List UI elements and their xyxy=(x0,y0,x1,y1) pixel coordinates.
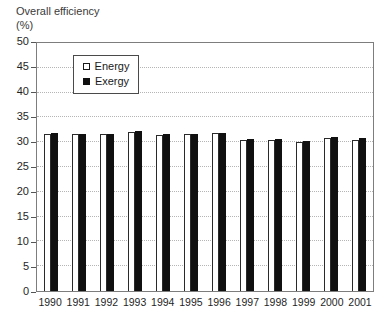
bar-group-1998 xyxy=(261,43,289,291)
bar-energy-1999 xyxy=(296,142,303,291)
y-tick-mark-5 xyxy=(31,267,36,268)
bar-energy-1993 xyxy=(128,132,135,291)
bar-group-2000 xyxy=(317,43,345,291)
x-tick-label-1993: 1993 xyxy=(121,296,149,308)
x-tick-label-1992: 1992 xyxy=(92,296,120,308)
bar-energy-2000 xyxy=(324,138,331,291)
bar-energy-2001 xyxy=(352,140,359,291)
y-tick-mark-45 xyxy=(31,67,36,68)
bar-exergy-1995 xyxy=(191,134,198,291)
bar-energy-1991 xyxy=(72,134,79,291)
bar-exergy-2001 xyxy=(359,138,366,291)
bar-exergy-1991 xyxy=(79,134,86,291)
y-tick-mark-35 xyxy=(31,117,36,118)
bar-group-1999 xyxy=(289,43,317,291)
legend-item-exergy: Exergy xyxy=(83,76,129,87)
plot-area: EnergyExergy xyxy=(36,42,374,292)
y-tick-label-50: 50 xyxy=(0,35,29,47)
x-tick-label-2001: 2001 xyxy=(346,296,374,308)
bar-energy-1995 xyxy=(184,134,191,291)
bar-exergy-1990 xyxy=(51,133,58,291)
legend-item-energy: Energy xyxy=(83,61,130,72)
legend-label-energy: Energy xyxy=(95,61,130,72)
x-tick-label-1995: 1995 xyxy=(177,296,205,308)
x-tick-label-1998: 1998 xyxy=(261,296,289,308)
bar-energy-1994 xyxy=(156,135,163,291)
x-tick-label-1991: 1991 xyxy=(64,296,92,308)
x-tick-label-1997: 1997 xyxy=(233,296,261,308)
y-tick-mark-50 xyxy=(31,42,36,43)
bar-group-2001 xyxy=(345,43,373,291)
bar-exergy-1998 xyxy=(275,139,282,291)
bar-group-1990 xyxy=(37,43,65,291)
bar-group-1996 xyxy=(205,43,233,291)
y-tick-label-45: 45 xyxy=(0,60,29,72)
y-tick-label-25: 25 xyxy=(0,160,29,172)
y-tick-label-10: 10 xyxy=(0,235,29,247)
bar-group-1994 xyxy=(149,43,177,291)
bar-energy-1996 xyxy=(212,133,219,291)
y-tick-label-5: 5 xyxy=(0,260,29,272)
y-tick-label-15: 15 xyxy=(0,210,29,222)
chart-title: Overall efficiency (%) xyxy=(16,4,102,32)
y-tick-mark-10 xyxy=(31,242,36,243)
y-tick-mark-30 xyxy=(31,142,36,143)
figure: Overall efficiency (%) EnergyExergy 1990… xyxy=(0,0,387,327)
legend-label-exergy: Exergy xyxy=(95,76,129,87)
y-tick-label-30: 30 xyxy=(0,135,29,147)
bar-exergy-2000 xyxy=(331,137,338,291)
y-tick-mark-20 xyxy=(31,192,36,193)
x-tick-label-2000: 2000 xyxy=(318,296,346,308)
x-axis-labels: 1990199119921993199419951996199719981999… xyxy=(36,296,374,308)
y-tick-label-20: 20 xyxy=(0,185,29,197)
bar-exergy-1992 xyxy=(107,134,114,291)
x-tick-label-1990: 1990 xyxy=(36,296,64,308)
bar-exergy-1993 xyxy=(135,131,142,291)
bar-exergy-1994 xyxy=(163,134,170,291)
energy-swatch-icon xyxy=(83,63,90,70)
bar-energy-1992 xyxy=(100,134,107,291)
y-tick-mark-0 xyxy=(31,292,36,293)
bar-exergy-1997 xyxy=(247,139,254,291)
bar-group-1997 xyxy=(233,43,261,291)
bar-group-1995 xyxy=(177,43,205,291)
y-tick-label-35: 35 xyxy=(0,110,29,122)
legend: EnergyExergy xyxy=(73,55,139,94)
x-tick-label-1996: 1996 xyxy=(205,296,233,308)
bar-energy-1997 xyxy=(240,140,247,291)
y-tick-mark-40 xyxy=(31,92,36,93)
bar-exergy-1999 xyxy=(303,141,310,291)
exergy-swatch-icon xyxy=(83,78,90,85)
bar-energy-1998 xyxy=(268,140,275,291)
y-tick-mark-25 xyxy=(31,167,36,168)
bar-exergy-1996 xyxy=(219,133,226,291)
y-tick-mark-15 xyxy=(31,217,36,218)
x-tick-label-1994: 1994 xyxy=(149,296,177,308)
y-tick-label-0: 0 xyxy=(0,285,29,297)
x-tick-label-1999: 1999 xyxy=(290,296,318,308)
y-tick-label-40: 40 xyxy=(0,85,29,97)
bar-energy-1990 xyxy=(44,134,51,291)
